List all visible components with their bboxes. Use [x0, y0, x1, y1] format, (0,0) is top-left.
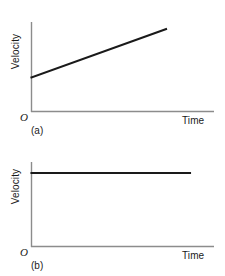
panel-a-y-axis-label: Velocity	[10, 24, 21, 80]
velocity-time-figure: Velocity Time O (a) Velocity Time O (b)	[0, 0, 225, 276]
panel-b-y-axis-label: Velocity	[10, 159, 21, 215]
panel-a: Velocity Time O (a)	[0, 0, 225, 140]
panel-a-origin-label: O	[20, 111, 28, 123]
panel-b-origin-label: O	[20, 246, 28, 258]
panel-b-x-axis-label: Time	[182, 250, 204, 261]
panel-b-caption: (b)	[31, 260, 43, 271]
panel-a-caption: (a)	[31, 125, 43, 136]
panel-a-velocity-line	[32, 29, 167, 77]
panel-b: Velocity Time O (b)	[0, 140, 225, 276]
panel-a-x-axis-label: Time	[182, 115, 204, 126]
